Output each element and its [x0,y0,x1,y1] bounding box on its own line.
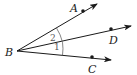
point-c-dot [90,55,94,59]
label-c: C [88,63,97,75]
label-b: B [4,46,13,59]
label-a: A [69,2,78,15]
ray-bc [17,51,111,60]
angle-label-1: 1 [54,42,60,52]
point-a-dot [81,9,85,13]
angle-arc-2 [57,28,63,42]
angle-diagram: B A D C 2 1 [0,0,137,75]
point-d-dot [109,27,113,31]
label-d: D [108,34,118,47]
